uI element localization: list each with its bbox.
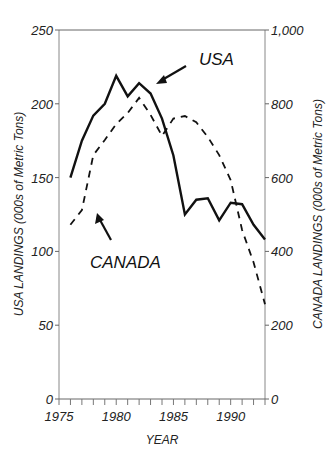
y-tick-label: 250 (30, 23, 53, 38)
line-chart: 050100150200250 02004006008001,000 19751… (0, 0, 334, 474)
x-tick-label: 1990 (216, 409, 246, 424)
canada-series-line (70, 98, 265, 304)
usa-annotation-label: USA (199, 50, 234, 69)
usa-arrow-icon (156, 66, 186, 84)
x-tick-label: 1980 (102, 409, 132, 424)
right-y-axis: 02004006008001,000 (265, 23, 304, 407)
right-y-axis-title: CANADA LANDINGS (000s of Metric Tons) (311, 99, 325, 329)
y-tick-label: 0 (46, 392, 54, 407)
y-tick-label: 200 (30, 97, 53, 112)
y2-tick-label: 400 (271, 244, 293, 259)
x-tick-label: 1975 (45, 409, 75, 424)
y-tick-label: 150 (31, 171, 53, 186)
y2-tick-label: 0 (271, 392, 279, 407)
x-tick-label: 1985 (159, 409, 189, 424)
left-y-axis-title: USA LANDINGS (000s of Metric Tons) (12, 112, 26, 317)
left-y-axis: 050100150200250 (30, 23, 59, 407)
x-axis: 1975198019851990 (45, 399, 265, 424)
usa-series-line (70, 76, 265, 240)
canada-annotation-label: CANADA (90, 253, 161, 272)
y2-tick-label: 800 (271, 97, 293, 112)
y2-tick-label: 1,000 (271, 23, 304, 38)
canada-arrow-icon (95, 213, 111, 240)
y-tick-label: 50 (39, 318, 54, 333)
x-axis-title: YEAR (146, 433, 179, 447)
y2-tick-label: 600 (271, 171, 293, 186)
plot-frame (59, 30, 265, 399)
y-tick-label: 100 (31, 244, 53, 259)
y2-tick-label: 200 (270, 318, 293, 333)
